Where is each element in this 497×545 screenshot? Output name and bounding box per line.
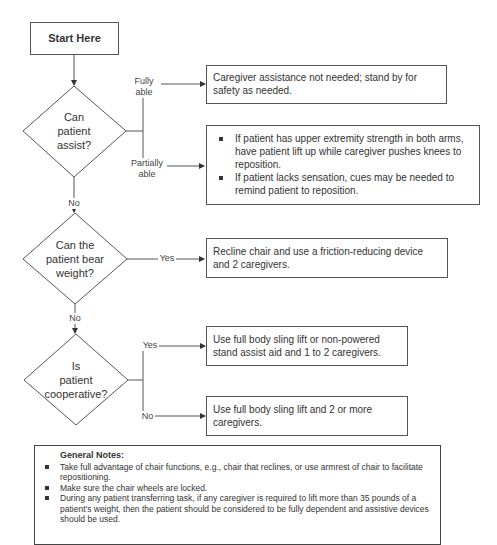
outcome-bear-weight-yes: Recline chair and use a friction-reducin…	[206, 238, 448, 278]
decision-cooperative-label: Is patient cooperative?	[31, 359, 121, 401]
branch-label-partially-able: Partially able	[127, 158, 167, 180]
general-notes-box: General Notes: Take full advantage of ch…	[34, 445, 441, 545]
note-item: Take full advantage of chair functions, …	[60, 462, 432, 483]
branch-label-bear-yes: Yes	[158, 253, 176, 264]
general-notes-title: General Notes:	[43, 450, 432, 461]
branch-label-no-1: No	[66, 198, 82, 209]
branch-label-no-2: No	[67, 313, 83, 324]
note-item: Make sure the chair wheels are locked.	[60, 483, 432, 494]
bullet-item: If patient lacks sensation, cues may be …	[235, 171, 473, 197]
start-box: Start Here	[30, 22, 119, 55]
decision-assist-label: Can patient assist?	[34, 110, 114, 152]
branch-label-coop-no: No	[140, 411, 155, 422]
bullet-item: If patient has upper extremity strength …	[235, 132, 473, 171]
outcome-partially-able: If patient has upper extremity strength …	[206, 125, 480, 205]
outcome-cooperative-no: Use full body sling lift and 2 or more c…	[206, 396, 408, 436]
decision-bear-weight-label: Can the patient bear weight?	[30, 238, 120, 280]
note-item: During any patient transferring task, if…	[60, 493, 432, 525]
branch-label-coop-yes: Yes	[141, 340, 159, 351]
start-label: Start Here	[48, 32, 101, 45]
branch-label-fully-able: Fully able	[130, 76, 158, 98]
outcome-fully-able: Caregiver assistance not needed; stand b…	[206, 65, 447, 104]
outcome-cooperative-yes: Use full body sling lift or non-powered …	[206, 326, 408, 366]
